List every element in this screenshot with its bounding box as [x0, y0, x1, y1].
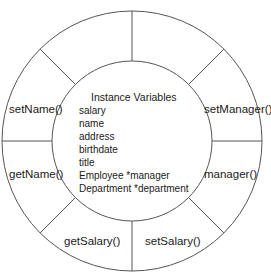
instance-variable: title — [79, 156, 189, 169]
instance-variable: salary — [79, 104, 189, 117]
instance-variables-title: Instance Variables — [91, 92, 177, 103]
method-set-name: setName() — [9, 104, 63, 116]
method-manager: manager() — [204, 169, 257, 181]
divider-upper-right — [189, 49, 224, 84]
divider-lower-right — [189, 198, 224, 233]
method-set-salary: setSalary() — [145, 236, 201, 248]
instance-variable: Department *department — [79, 182, 189, 195]
instance-variable: address — [79, 130, 189, 143]
instance-variable: name — [79, 117, 189, 130]
method-get-name: getName() — [9, 169, 63, 181]
method-set-manager: setManager() — [204, 104, 271, 116]
method-get-salary: getSalary() — [64, 236, 120, 248]
instance-variable-list: salary name address birthdate title Empl… — [79, 104, 189, 195]
instance-variable: birthdate — [79, 143, 189, 156]
instance-variable: Employee *manager — [79, 169, 189, 182]
divider-lower-left — [40, 198, 75, 233]
divider-upper-left — [40, 49, 75, 84]
